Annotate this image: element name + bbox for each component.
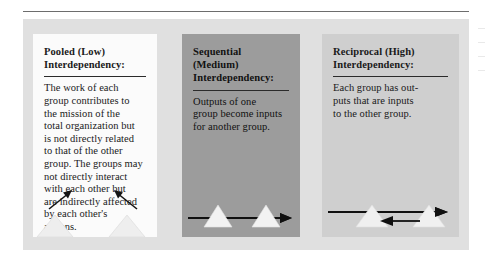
panel-pooled-title-rule <box>44 76 146 77</box>
group-triangle-right <box>413 205 445 227</box>
panel-reciprocal: Reciprocal (High) Interdependency: Each … <box>322 34 459 237</box>
margin-mark <box>478 56 485 57</box>
group-triangle-first <box>204 205 232 227</box>
panel-sequential-title: Sequential (Medium) Interdependency: <box>193 45 289 85</box>
panel-reciprocal-title: Reciprocal (High) Interdependency: <box>333 45 448 71</box>
sequential-diagram-svg <box>182 181 300 237</box>
panel-sequential: Sequential (Medium) Interdependency: Out… <box>182 34 300 237</box>
panel-reciprocal-diagram <box>322 181 459 237</box>
group-triangle-second <box>252 205 280 227</box>
panel-sequential-diagram <box>182 181 300 237</box>
figure-frame: Pooled (Low) Interdependency: The work o… <box>23 19 469 250</box>
panel-sequential-title-rule <box>193 90 289 91</box>
group-triangle-right-outer <box>109 215 145 237</box>
group-triangle-left <box>356 205 388 227</box>
arrow-into-right-group <box>114 190 137 209</box>
panel-reciprocal-text: Each group has out- puts that are inputs… <box>333 82 448 120</box>
panel-sequential-body: Sequential (Medium) Interdependency: Out… <box>182 34 300 133</box>
group-triangle-left-outer <box>37 215 73 237</box>
panel-reciprocal-title-rule <box>333 76 448 77</box>
arrow-into-left-group <box>49 190 72 209</box>
margin-mark <box>478 28 485 29</box>
panel-pooled-title: Pooled (Low) Interdependency: <box>44 45 146 71</box>
panel-reciprocal-body: Reciprocal (High) Interdependency: Each … <box>322 34 459 120</box>
panel-pooled-diagram <box>33 181 157 237</box>
reciprocal-diagram-svg <box>322 181 459 237</box>
margin-mark <box>478 70 485 71</box>
margin-mark <box>478 42 485 43</box>
top-divider-rule <box>23 11 469 12</box>
margin-marks <box>478 28 488 88</box>
pooled-diagram-svg <box>33 181 157 237</box>
panel-sequential-text: Outputs of one group become inputs for a… <box>193 96 289 134</box>
panel-pooled: Pooled (Low) Interdependency: The work o… <box>33 34 157 237</box>
